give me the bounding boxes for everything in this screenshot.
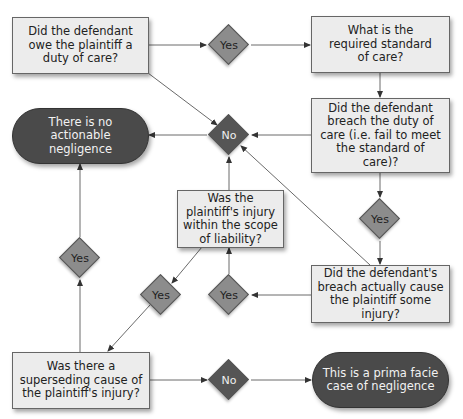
terminal-label: There is no actionable negligence bbox=[21, 116, 141, 157]
decision-yes-duty: Yes bbox=[208, 24, 250, 66]
node-label: Did the defendant owe the plaintiff a du… bbox=[26, 25, 136, 66]
node-breach: Did the defendant breach the duty of car… bbox=[311, 98, 450, 173]
node-label: What is the required standard of care? bbox=[326, 24, 436, 65]
node-label: Was there a superseding cause of the pla… bbox=[18, 360, 144, 401]
terminal-no-actionable-negligence: There is no actionable negligence bbox=[12, 108, 149, 164]
decision-no-superseding: No bbox=[208, 359, 250, 401]
node-superseding-cause: Was there a superseding cause of the pla… bbox=[12, 352, 150, 409]
decision-yes-scope: Yes bbox=[140, 274, 182, 316]
decision-label: Yes bbox=[208, 24, 250, 66]
decision-label: Yes bbox=[59, 237, 101, 279]
decision-label: Yes bbox=[359, 198, 401, 240]
decision-label: No bbox=[208, 359, 250, 401]
decision-label: Yes bbox=[208, 274, 250, 316]
decision-yes-superseding: Yes bbox=[59, 237, 101, 279]
decision-no-central: No bbox=[208, 114, 250, 156]
node-duty-of-care: Did the defendant owe the plaintiff a du… bbox=[12, 17, 149, 74]
node-label: Was the plaintiff's injury within the sc… bbox=[181, 192, 281, 246]
node-label: Did the defendant breach the duty of car… bbox=[318, 102, 444, 170]
node-standard-of-care: What is the required standard of care? bbox=[311, 16, 450, 73]
decision-label: No bbox=[208, 114, 250, 156]
node-label: Did the defendant's breach actually caus… bbox=[313, 267, 449, 321]
decision-yes-causation: Yes bbox=[208, 274, 250, 316]
decision-label: Yes bbox=[140, 274, 182, 316]
terminal-prima-facie: This is a prima facie case of negligence bbox=[312, 352, 449, 408]
node-scope-of-liability: Was the plaintiff's injury within the sc… bbox=[177, 190, 284, 248]
node-causation: Did the defendant's breach actually caus… bbox=[311, 265, 450, 323]
decision-yes-breach: Yes bbox=[359, 198, 401, 240]
terminal-label: This is a prima facie case of negligence bbox=[321, 367, 441, 394]
edge-duty-no bbox=[148, 73, 217, 125]
